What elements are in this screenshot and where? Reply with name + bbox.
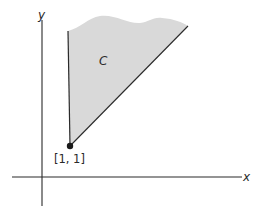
- corner-point: [67, 143, 73, 149]
- x-axis-label: x: [242, 170, 251, 184]
- region-label: C: [99, 54, 108, 68]
- diagram-canvas: y x C [1, 1]: [0, 0, 261, 215]
- y-axis-label: y: [37, 8, 46, 22]
- point-label: [1, 1]: [54, 152, 85, 166]
- shaded-region-c: [68, 16, 188, 146]
